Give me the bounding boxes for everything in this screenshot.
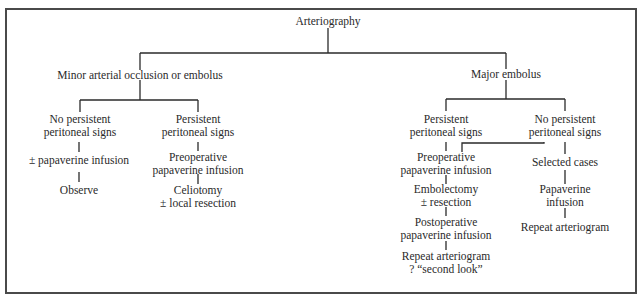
node-label-line: Repeat arteriogram bbox=[402, 250, 490, 263]
node-label-line: peritoneal signs bbox=[410, 126, 483, 139]
node-label-line: No persistent bbox=[44, 113, 117, 126]
node-label-line: peritoneal signs bbox=[162, 126, 235, 139]
node-label-line: ± local resection bbox=[160, 197, 236, 210]
node-minor-papaverine-optional: ± papaverine infusion bbox=[29, 154, 129, 167]
node-label-line: Preoperative bbox=[400, 151, 491, 164]
connector-lines bbox=[0, 0, 642, 298]
node-label-line: Celiotomy bbox=[160, 184, 236, 197]
node-minor-persistent-signs: Persistent peritoneal signs bbox=[162, 113, 235, 139]
node-label-line: Selected cases bbox=[532, 156, 598, 169]
node-label-line: Postoperative bbox=[400, 216, 491, 229]
node-minor-occlusion: Minor arterial occlusion or embolus bbox=[57, 69, 222, 82]
node-minor-preoperative-papaverine: Preoperative papaverine infusion bbox=[152, 151, 243, 177]
node-label-line: papaverine infusion bbox=[400, 229, 491, 242]
node-label-line: peritoneal signs bbox=[529, 126, 602, 139]
node-label-line: Persistent bbox=[410, 113, 483, 126]
node-repeat-arteriogram-second-look: Repeat arteriogram ? “second look” bbox=[402, 250, 490, 276]
node-label-line: ± papaverine infusion bbox=[29, 154, 129, 167]
node-minor-no-persistent-signs: No persistent peritoneal signs bbox=[44, 113, 117, 139]
node-major-preoperative-papaverine: Preoperative papaverine infusion bbox=[400, 151, 491, 177]
node-major-embolus: Major embolus bbox=[471, 68, 541, 81]
node-label: Minor arterial occlusion or embolus bbox=[57, 69, 222, 82]
node-label-line: Papaverine bbox=[539, 183, 590, 196]
node-major-no-persistent-signs: No persistent peritoneal signs bbox=[529, 113, 602, 139]
node-papaverine-infusion: Papaverine infusion bbox=[539, 183, 590, 209]
node-selected-cases: Selected cases bbox=[532, 156, 598, 169]
node-embolectomy: Embolectomy ± resection bbox=[414, 183, 479, 209]
node-label-line: ? “second look” bbox=[402, 263, 490, 276]
node-label: Major embolus bbox=[471, 68, 541, 81]
node-label-line: Persistent bbox=[162, 113, 235, 126]
node-label-line: Observe bbox=[60, 184, 98, 197]
node-label-line: peritoneal signs bbox=[44, 126, 117, 139]
node-arteriography: Arteriography bbox=[295, 15, 360, 28]
node-label: Arteriography bbox=[295, 15, 360, 28]
node-celiotomy: Celiotomy ± local resection bbox=[160, 184, 236, 210]
node-postoperative-papaverine: Postoperative papaverine infusion bbox=[400, 216, 491, 242]
node-label-line: Repeat arteriogram bbox=[521, 221, 609, 234]
node-label-line: No persistent bbox=[529, 113, 602, 126]
node-label-line: ± resection bbox=[414, 196, 479, 209]
node-label-line: papaverine infusion bbox=[152, 164, 243, 177]
node-label-line: papaverine infusion bbox=[400, 164, 491, 177]
node-repeat-arteriogram: Repeat arteriogram bbox=[521, 221, 609, 234]
node-label-line: infusion bbox=[539, 196, 590, 209]
node-observe: Observe bbox=[60, 184, 98, 197]
node-label-line: Preoperative bbox=[152, 151, 243, 164]
node-label-line: Embolectomy bbox=[414, 183, 479, 196]
node-major-persistent-signs: Persistent peritoneal signs bbox=[410, 113, 483, 139]
